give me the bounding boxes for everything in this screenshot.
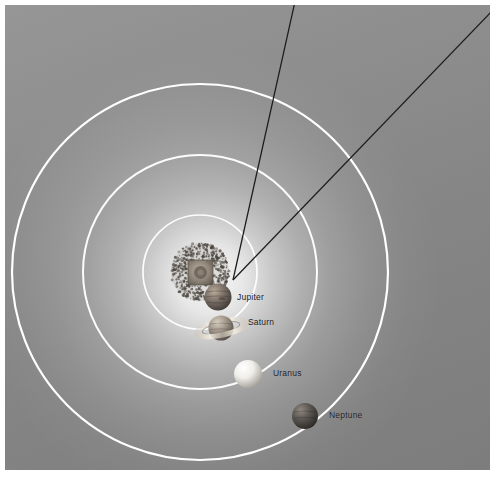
diagram-panel: Jupiter Saturn Uranus Neptune (5, 5, 490, 470)
neptune-body (292, 403, 318, 429)
saturn-body (195, 315, 247, 340)
diagram-vector-layer (5, 5, 490, 470)
uranus-body (234, 360, 262, 388)
jupiter-body (205, 284, 232, 311)
label-neptune: Neptune (329, 411, 363, 420)
figure-root: Jupiter Saturn Uranus Neptune (0, 0, 501, 484)
label-saturn: Saturn (248, 318, 274, 327)
callout-line-right (233, 9, 490, 280)
label-uranus: Uranus (273, 369, 302, 378)
callout-line-left (233, 5, 296, 280)
label-jupiter: Jupiter (237, 293, 264, 302)
callout-lines (233, 5, 490, 280)
